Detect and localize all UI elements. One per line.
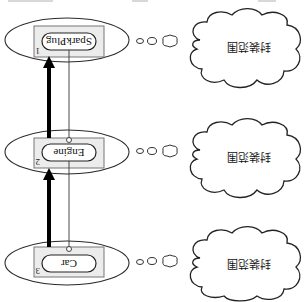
component-number: 2 bbox=[36, 157, 41, 167]
cloud-3: 封装范围 bbox=[190, 227, 300, 301]
thick-arrow-car-to-engine bbox=[43, 168, 55, 247]
cloud-label: 封装范围 bbox=[227, 40, 271, 54]
top-text-fragments bbox=[8, 0, 276, 2]
component-number: 1 bbox=[36, 46, 41, 56]
cloud-label: 封装范围 bbox=[227, 150, 271, 164]
component-label: Engine bbox=[53, 147, 84, 159]
cloud-label: 封装范围 bbox=[227, 257, 271, 271]
component-number: 3 bbox=[35, 266, 40, 276]
component-label: SparkPlug bbox=[46, 36, 92, 48]
connector-end-circle bbox=[67, 247, 72, 252]
cloud-2: 封装范围 bbox=[190, 119, 300, 198]
node-engine: Engine 2 bbox=[5, 130, 129, 174]
thought-bubbles-3 bbox=[137, 255, 178, 267]
thought-bubbles-1 bbox=[137, 35, 178, 47]
thick-arrow-engine-to-sparkplug bbox=[43, 56, 55, 138]
connector-end-circle bbox=[67, 138, 72, 143]
diagram-canvas: SparkPlug 1 Engine 2 Car 3 bbox=[0, 0, 307, 302]
thought-bubbles-2 bbox=[137, 145, 178, 157]
component-label: Car bbox=[61, 258, 77, 270]
node-sparkplug: SparkPlug 1 bbox=[5, 18, 129, 62]
cloud-1: 封装范围 bbox=[190, 9, 300, 88]
